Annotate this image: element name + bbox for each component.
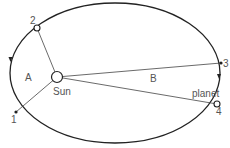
line-sun-to-1 [16,77,57,112]
line-sun-to-3 [57,63,221,77]
line-sun-to-2 [37,28,57,77]
orbit-ellipse [10,3,220,143]
orbit-svg: 2 1 3 4 A B Sun planet [0,0,230,148]
area-a-label: A [25,72,32,83]
point-3-label: 3 [223,58,229,69]
point-4-label: 4 [216,106,222,117]
point-1-label: 1 [11,114,17,125]
sun-marker [52,72,63,83]
area-b-label: B [150,73,157,84]
point-2-label: 2 [30,15,36,26]
planet-label: planet [192,88,219,99]
kepler-orbit-diagram: 2 1 3 4 A B Sun planet [0,0,230,148]
sun-label: Sun [53,86,71,97]
